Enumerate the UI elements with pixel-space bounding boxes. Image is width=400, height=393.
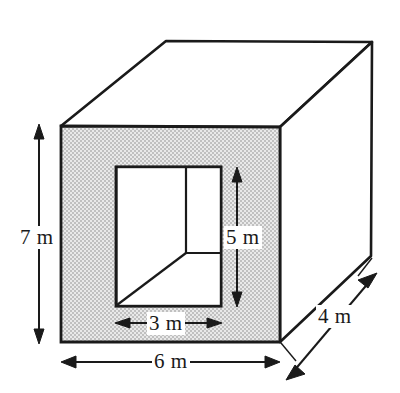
- dimension-label-height: 7 m: [18, 226, 56, 249]
- geometry-figure: 7 m 5 m 3 m 6 m 4 m: [0, 0, 400, 393]
- arrowhead-up: [34, 124, 44, 139]
- leader-front-bottom: [281, 343, 296, 361]
- dimension-label-opening-height: 5 m: [224, 226, 262, 249]
- opening-interior: [117, 168, 220, 305]
- arrowhead-left: [61, 356, 76, 368]
- box-solid: [61, 41, 372, 342]
- arrowhead-down: [34, 329, 44, 344]
- dimension-label-depth: 4 m: [316, 305, 354, 328]
- arrowhead-down-left: [286, 365, 305, 380]
- box-diagram-svg: [0, 0, 400, 393]
- arrowhead-right: [265, 356, 280, 368]
- dimension-label-width: 6 m: [152, 350, 190, 373]
- arrowhead-up-right: [358, 273, 377, 288]
- dimension-label-opening-width: 3 m: [147, 312, 185, 335]
